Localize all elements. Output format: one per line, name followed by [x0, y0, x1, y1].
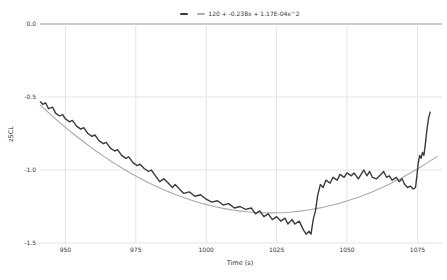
data-series-line	[40, 101, 430, 234]
y-tick-label: 0.0	[26, 20, 36, 27]
fit-curve-line	[40, 105, 437, 213]
plot-area: 0.0-0.5-1.0-1.59509751000102510501075	[0, 0, 447, 280]
x-tick-label: 975	[130, 246, 142, 253]
x-tick-label: 1025	[269, 246, 284, 253]
y-tick-label: -0.5	[24, 93, 36, 100]
x-tick-label: 950	[60, 246, 72, 253]
chart: 120 + -0.238x + 1.17E-04x^2 0.0-0.5-1.0-…	[0, 0, 447, 280]
y-axis-title: zSCL	[7, 114, 15, 154]
y-tick-label: -1.5	[24, 239, 36, 246]
x-tick-label: 1075	[410, 246, 425, 253]
x-axis-title: Time (s)	[40, 259, 440, 267]
x-tick-label: 1000	[199, 246, 214, 253]
x-tick-label: 1050	[339, 246, 354, 253]
y-tick-label: -1.0	[24, 166, 36, 173]
